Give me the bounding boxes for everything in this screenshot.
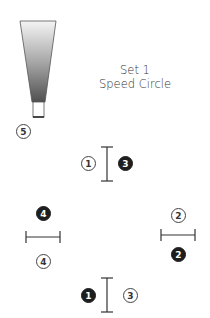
- speed-cone-icon: [20, 21, 56, 117]
- top-open-marker: 1: [81, 156, 96, 171]
- bottom-filled-marker: 1: [81, 288, 96, 303]
- gate-left: [26, 231, 60, 243]
- right-filled-marker: 2: [171, 247, 186, 262]
- bottom-open-marker: 3: [123, 288, 138, 303]
- left-open-marker: 4: [36, 254, 51, 269]
- right-open-marker: 2: [171, 208, 186, 223]
- cone-marker-5: 5: [16, 124, 31, 139]
- top-filled-marker: 3: [118, 156, 133, 171]
- left-filled-marker: 4: [36, 206, 51, 221]
- diagram-title: Set 1 Speed Circle: [90, 63, 180, 91]
- drill-name: Speed Circle: [90, 77, 180, 91]
- gate-right: [161, 229, 195, 241]
- gate-top: [101, 147, 113, 181]
- diagram-canvas: [0, 0, 210, 318]
- gate-bottom: [101, 278, 113, 312]
- set-label: Set 1: [90, 63, 180, 77]
